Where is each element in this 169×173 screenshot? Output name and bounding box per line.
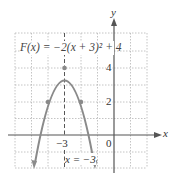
y-axis-label: y <box>111 6 116 18</box>
function-label: F(x) = −2(x + 3)² + 4 <box>20 41 122 53</box>
x-tick-0: 0 <box>106 137 112 149</box>
x-axis-arrow-icon <box>154 132 162 138</box>
symmetry-label: x = −3 <box>65 153 96 165</box>
point-right <box>79 100 84 105</box>
x-tick-neg3: −3 <box>56 137 68 149</box>
point-vertex <box>62 66 67 71</box>
parabola-graph <box>0 0 169 173</box>
x-axis-label: x <box>163 127 168 139</box>
y-tick-4: 4 <box>106 61 112 73</box>
point-left <box>46 100 51 105</box>
y-tick-2: 2 <box>106 95 112 107</box>
y-axis-arrow-icon <box>111 18 117 26</box>
